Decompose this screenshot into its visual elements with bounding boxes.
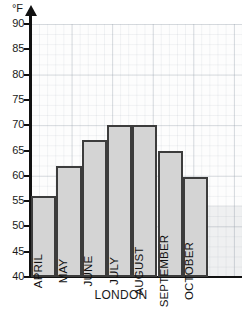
bar-category-label: MAY bbox=[57, 259, 69, 284]
bar[interactable]: JULY bbox=[107, 125, 132, 277]
bar[interactable]: APRIL bbox=[31, 196, 56, 277]
bar[interactable]: MAY bbox=[56, 166, 81, 277]
y-axis-tick bbox=[24, 276, 30, 278]
y-axis-tick bbox=[24, 124, 30, 126]
y-axis-tick-label: 85 bbox=[2, 42, 24, 54]
y-axis-tick bbox=[24, 200, 30, 202]
y-axis-tick-label: 65 bbox=[2, 144, 24, 156]
y-axis-tick bbox=[24, 150, 30, 152]
y-axis-tick bbox=[24, 74, 30, 76]
y-axis-tick bbox=[24, 251, 30, 253]
bar-category-label: JULY bbox=[108, 257, 120, 285]
bar[interactable]: SEPTEMBER bbox=[158, 151, 183, 278]
y-axis-tick bbox=[24, 23, 30, 25]
y-axis-tick bbox=[24, 99, 30, 101]
y-axis-tick-label: 60 bbox=[2, 169, 24, 181]
bar-category-label: APRIL bbox=[32, 254, 44, 288]
bar[interactable]: JUNE bbox=[82, 140, 107, 277]
y-axis-tick-label: 90 bbox=[2, 17, 24, 29]
y-axis-tick-label: 40 bbox=[2, 270, 24, 282]
bars-layer: APRILMAYJUNEJULYAUGUSTSEPTEMBEROCTOBER bbox=[31, 24, 242, 277]
y-axis-arrow-icon bbox=[25, 5, 37, 16]
y-axis-tick-label: 70 bbox=[2, 118, 24, 130]
y-axis-tick-label: 50 bbox=[2, 219, 24, 231]
y-axis-tick bbox=[24, 225, 30, 227]
x-axis-title: LONDON bbox=[31, 288, 211, 302]
bar-category-label: JUNE bbox=[82, 256, 94, 287]
y-axis-tick-label: 55 bbox=[2, 194, 24, 206]
bar[interactable]: AUGUST bbox=[132, 125, 157, 277]
y-axis-tick-label: 75 bbox=[2, 93, 24, 105]
y-axis-tick-label: 45 bbox=[2, 245, 24, 257]
bar[interactable]: OCTOBER bbox=[183, 177, 208, 277]
y-axis-tick bbox=[24, 48, 30, 50]
y-axis-unit-label: °F bbox=[12, 2, 23, 14]
y-axis-tick bbox=[24, 175, 30, 177]
y-axis-tick-label: 80 bbox=[2, 68, 24, 80]
bar-chart: °F 9085807570656055504540 APRILMAYJUNEJU… bbox=[0, 0, 246, 312]
